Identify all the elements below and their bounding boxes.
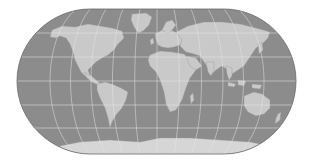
- new-guinea: [252, 84, 262, 89]
- antarctica: [60, 138, 270, 160]
- world-map: [0, 0, 317, 168]
